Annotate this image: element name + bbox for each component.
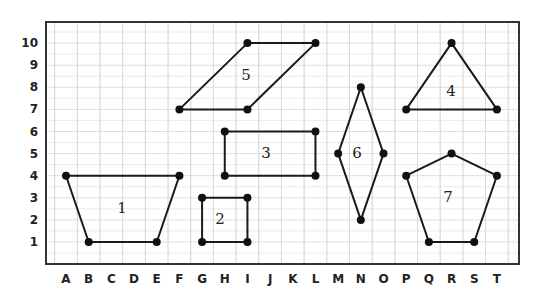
vertex-dot — [470, 238, 478, 246]
x-axis-label: O — [378, 272, 388, 286]
vertex-dot — [425, 238, 433, 246]
x-axis-label: R — [447, 272, 456, 286]
shape-number-label: 5 — [241, 66, 251, 84]
vertex-dot — [402, 172, 410, 180]
vertex-dot — [221, 128, 229, 136]
x-axis-label: A — [61, 272, 71, 286]
shape-number-label: 7 — [443, 188, 453, 206]
y-axis-label: 3 — [30, 191, 38, 205]
shape-number-label: 1 — [117, 199, 127, 217]
x-axis-labels: ABCDEFGHIJKLMNOPQRST — [61, 272, 501, 286]
y-axis-label: 7 — [30, 102, 38, 116]
x-axis-label: L — [312, 272, 320, 286]
shape-number-label: 4 — [446, 82, 456, 100]
y-axis-label: 2 — [30, 213, 38, 227]
x-axis-label: F — [175, 272, 183, 286]
vertex-dot — [243, 194, 251, 202]
vertex-dot — [311, 128, 319, 136]
coordinate-grid-diagram: 1234567 12345678910 ABCDEFGHIJKLMNOPQRST — [0, 0, 540, 300]
y-axis-label: 4 — [30, 169, 38, 183]
x-axis-label: J — [267, 272, 272, 286]
x-axis-label: K — [288, 272, 298, 286]
vertex-dot — [493, 105, 501, 113]
grid-border — [46, 22, 519, 264]
x-axis-label: Q — [424, 272, 434, 286]
vertex-dot — [402, 105, 410, 113]
y-axis-label: 8 — [30, 80, 38, 94]
x-axis-label: D — [129, 272, 139, 286]
y-axis-label: 6 — [30, 125, 38, 139]
shape-number-label: 3 — [261, 144, 271, 162]
grid-lines — [46, 22, 519, 264]
vertex-dot — [380, 150, 388, 158]
vertex-dot — [334, 150, 342, 158]
x-axis-label: H — [220, 272, 230, 286]
y-axis-label: 9 — [30, 58, 38, 72]
vertex-dot — [311, 39, 319, 47]
y-axis-label: 10 — [21, 36, 38, 50]
shape-number-label: 2 — [215, 210, 225, 228]
vertex-dot — [175, 172, 183, 180]
x-axis-label: S — [470, 272, 479, 286]
vertex-dot — [448, 150, 456, 158]
x-axis-label: P — [402, 272, 411, 286]
vertex-dot — [198, 238, 206, 246]
vertex-dot — [198, 194, 206, 202]
x-axis-label: M — [332, 272, 344, 286]
y-axis-label: 1 — [30, 235, 38, 249]
vertex-dot — [62, 172, 70, 180]
x-axis-label: B — [84, 272, 93, 286]
vertex-dot — [448, 39, 456, 47]
vertex-dot — [153, 238, 161, 246]
vertex-dot — [243, 105, 251, 113]
x-axis-label: G — [197, 272, 207, 286]
vertex-dot — [221, 172, 229, 180]
vertex-dot — [85, 238, 93, 246]
x-axis-label: N — [356, 272, 366, 286]
shape-number-label: 6 — [352, 144, 362, 162]
x-axis-label: E — [153, 272, 161, 286]
x-axis-label: C — [107, 272, 116, 286]
y-axis-labels: 12345678910 — [21, 36, 38, 249]
vertex-dot — [243, 238, 251, 246]
x-axis-label: T — [493, 272, 502, 286]
vertex-dot — [357, 216, 365, 224]
y-axis-label: 5 — [30, 147, 38, 161]
vertex-dot — [311, 172, 319, 180]
vertex-dot — [175, 105, 183, 113]
x-axis-label: I — [245, 272, 249, 286]
vertex-dot — [357, 83, 365, 91]
vertex-dot — [493, 172, 501, 180]
vertex-dot — [243, 39, 251, 47]
